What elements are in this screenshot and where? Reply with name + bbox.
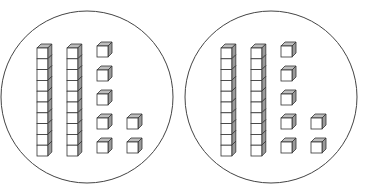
left-circle [1,11,173,183]
unit-cube [127,138,142,153]
tens-rod [221,44,236,156]
unit-cube [127,114,142,129]
right-circle [185,11,357,183]
unit-cube [311,114,326,129]
unit-cube [281,66,296,81]
unit-cube [97,138,112,153]
unit-cube [97,42,112,57]
circle-outline [185,11,357,183]
unit-cube [97,90,112,105]
unit-cube [281,90,296,105]
unit-cube [281,114,296,129]
unit-cube [281,42,296,57]
base-ten-diagram [0,0,365,192]
unit-cube [311,138,326,153]
unit-cube [97,66,112,81]
tens-rod [37,44,52,156]
unit-cube [281,138,296,153]
unit-cube [97,114,112,129]
circle-outline [1,11,173,183]
tens-rod [251,44,266,156]
tens-rod [67,44,82,156]
